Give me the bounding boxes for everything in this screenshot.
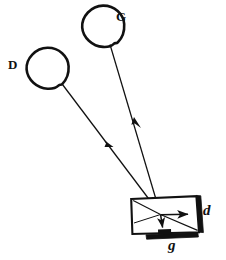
circle-D-outline <box>27 48 69 89</box>
plate-g-riser <box>158 229 171 235</box>
ray-from-D-line <box>63 85 161 215</box>
label-plate-d: d <box>203 203 211 218</box>
optical-diagram-figure: D G d g <box>0 0 226 260</box>
ray-from-G-arrowhead <box>131 117 141 128</box>
label-plate-g: g <box>168 238 176 253</box>
label-source-D: D <box>8 58 17 71</box>
ray-from-G-line <box>110 45 161 215</box>
source-circle-D <box>27 48 69 89</box>
ray-from-D <box>63 85 161 215</box>
arrow-to-plate-d-line <box>161 214 188 215</box>
ray-from-D-arrowhead <box>104 140 114 147</box>
arrow-to-plate-d <box>161 214 188 215</box>
ray-from-G <box>110 45 161 215</box>
label-source-G: G <box>116 10 126 23</box>
diagram-canvas <box>0 0 226 260</box>
